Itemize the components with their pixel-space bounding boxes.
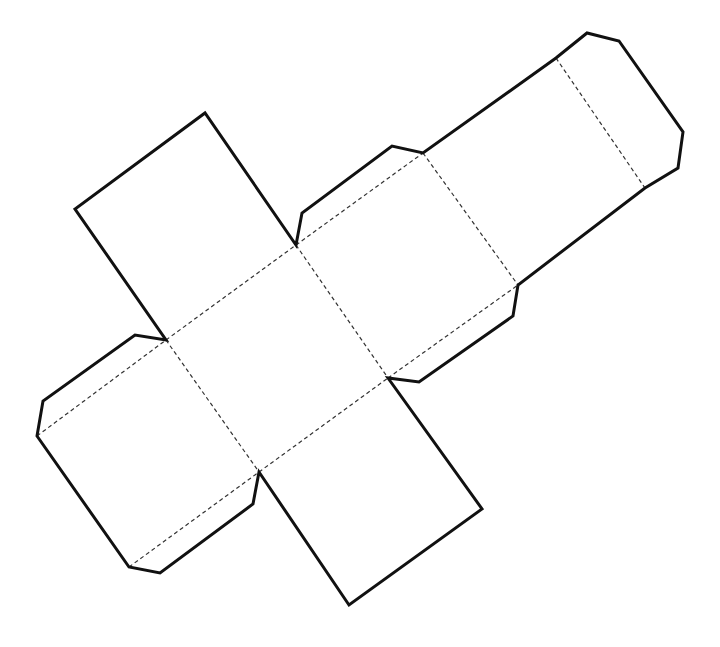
faces-layer — [37, 33, 683, 605]
cube-net-diagram — [0, 0, 720, 647]
